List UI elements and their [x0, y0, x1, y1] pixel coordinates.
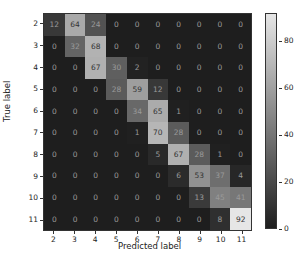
heatmap-cell: 0: [127, 208, 148, 230]
heatmap-cell: 0: [106, 36, 127, 58]
heatmap-cell: 0: [65, 187, 86, 209]
heatmap-cell: 0: [85, 79, 106, 101]
heatmap-cell: 59: [127, 79, 148, 101]
y-tick-label: 5: [18, 84, 38, 93]
heatmap-cell: 67: [168, 144, 189, 166]
heatmap-cell: 0: [44, 208, 65, 230]
heatmap-cell: 0: [44, 79, 65, 101]
heatmap-cell: 0: [189, 36, 210, 58]
heatmap-cell: 0: [65, 122, 86, 144]
heatmap-cell: 64: [65, 14, 86, 36]
x-tick-label: 2: [43, 235, 63, 244]
heatmap-cell: 0: [189, 100, 210, 122]
heatmap-cell: 68: [85, 36, 106, 58]
heatmap-cell: 6: [168, 165, 189, 187]
heatmap-cell: 0: [44, 100, 65, 122]
heatmap-cell: 0: [85, 144, 106, 166]
heatmap-cell: 1: [127, 122, 148, 144]
heatmap-cell: 0: [127, 187, 148, 209]
heatmap-cell: 0: [210, 122, 231, 144]
y-axis-label: True label: [2, 81, 12, 122]
heatmap-cell: 4: [230, 165, 251, 187]
heatmap-cell: 0: [230, 36, 251, 58]
heatmap-cell: 1: [168, 100, 189, 122]
y-tick-label: 7: [18, 128, 38, 137]
heatmap-cell: 0: [168, 187, 189, 209]
colorbar: [265, 13, 277, 229]
heatmap-cell: 5: [148, 144, 169, 166]
heatmap-cell: 0: [44, 187, 65, 209]
heatmap-cell: 0: [127, 14, 148, 36]
heatmap-cell: 0: [168, 14, 189, 36]
heatmap-cell: 0: [148, 187, 169, 209]
colorbar-tick-label: 60: [284, 83, 294, 92]
heatmap-cell: 0: [230, 144, 251, 166]
heatmap-cell: 0: [230, 100, 251, 122]
x-tick-label: 3: [64, 235, 84, 244]
heatmap-cell: 2: [127, 57, 148, 79]
heatmap-cell: 0: [85, 165, 106, 187]
heatmap-cell: 0: [148, 14, 169, 36]
heatmap-cell: 0: [65, 100, 86, 122]
confusion-matrix-figure: True label 234567891011 1264240000000032…: [0, 0, 305, 263]
heatmap-cell: 0: [168, 208, 189, 230]
heatmap-cell: 0: [65, 144, 86, 166]
heatmap-grid: 1264240000000032680000000006730200000000…: [43, 13, 252, 231]
heatmap-cell: 28: [106, 79, 127, 101]
heatmap-cell: 28: [168, 122, 189, 144]
y-tick-label: 10: [18, 193, 38, 202]
y-tick-label: 6: [18, 106, 38, 115]
heatmap-cell: 0: [168, 79, 189, 101]
heatmap-cell: 0: [127, 144, 148, 166]
heatmap-cell: 0: [106, 208, 127, 230]
heatmap-cell: 0: [189, 122, 210, 144]
heatmap-cell: 0: [127, 165, 148, 187]
heatmap-cell: 0: [148, 36, 169, 58]
heatmap-cell: 0: [189, 79, 210, 101]
heatmap-cell: 0: [148, 165, 169, 187]
heatmap-cell: 0: [210, 57, 231, 79]
heatmap-cell: 0: [148, 57, 169, 79]
heatmap-cell: 0: [106, 14, 127, 36]
x-tick-label: 11: [232, 235, 252, 244]
y-tick-label: 2: [18, 19, 38, 28]
y-tick-label: 4: [18, 63, 38, 72]
heatmap-cell: 0: [106, 100, 127, 122]
heatmap-cell: 0: [168, 36, 189, 58]
heatmap-cell: 0: [230, 57, 251, 79]
heatmap-cell: 24: [85, 14, 106, 36]
heatmap-cell: 28: [189, 144, 210, 166]
heatmap-cell: 0: [65, 79, 86, 101]
heatmap-cell: 37: [210, 165, 231, 187]
colorbar-tick-label: 20: [284, 177, 294, 186]
heatmap-cell: 0: [65, 57, 86, 79]
heatmap-cell: 45: [210, 187, 231, 209]
heatmap-cell: 0: [85, 208, 106, 230]
heatmap-cell: 0: [210, 79, 231, 101]
x-axis-label: Predicted label: [118, 241, 181, 251]
heatmap-cell: 0: [65, 208, 86, 230]
heatmap-cell: 0: [106, 165, 127, 187]
heatmap-cell: 0: [168, 57, 189, 79]
y-tick-label: 11: [18, 215, 38, 224]
heatmap-cell: 0: [189, 208, 210, 230]
heatmap-cell: 0: [210, 100, 231, 122]
y-tick-label: 3: [18, 41, 38, 50]
heatmap-cell: 92: [230, 208, 251, 230]
heatmap-cell: 0: [44, 122, 65, 144]
heatmap-cell: 0: [210, 36, 231, 58]
colorbar-tick-label: 80: [284, 36, 294, 45]
colorbar-tick-label: 40: [284, 130, 294, 139]
heatmap-cell: 0: [210, 14, 231, 36]
heatmap-cell: 32: [65, 36, 86, 58]
heatmap-cell: 0: [230, 14, 251, 36]
x-tick-label: 9: [190, 235, 210, 244]
heatmap-cell: 12: [44, 14, 65, 36]
heatmap-cell: 0: [85, 122, 106, 144]
y-tick-label: 9: [18, 172, 38, 181]
heatmap-cell: 0: [127, 36, 148, 58]
heatmap-cell: 65: [148, 100, 169, 122]
heatmap-cell: 13: [189, 187, 210, 209]
heatmap-cell: 34: [127, 100, 148, 122]
heatmap-cell: 12: [148, 79, 169, 101]
